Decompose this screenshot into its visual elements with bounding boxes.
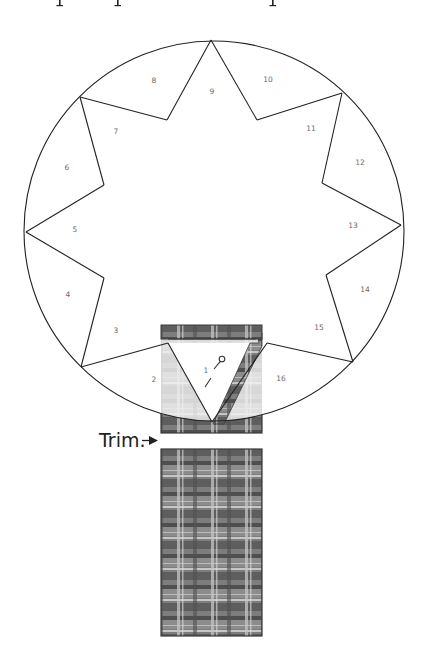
segment-label-15: 15 [314, 323, 324, 332]
segment-label-7: 7 [114, 127, 119, 136]
segment-label-2: 2 [152, 375, 157, 384]
segment-label-14: 14 [360, 285, 370, 294]
segment-label-3: 3 [114, 326, 119, 335]
segment-label-4: 4 [66, 290, 71, 299]
segment-label-9: 9 [210, 87, 215, 96]
segment-label-11: 11 [306, 124, 316, 133]
segment-label-1: 1 [204, 366, 209, 375]
segment-label-6: 6 [65, 163, 70, 172]
segment-label-16: 16 [276, 374, 286, 383]
segment-label-13: 13 [348, 221, 358, 230]
previous-line-descenders [57, 0, 277, 6]
trim-label: Trim. [98, 429, 145, 451]
arrow-right-icon [149, 436, 158, 445]
trim-annotation: Trim. [98, 429, 158, 451]
segment-label-5: 5 [73, 225, 78, 234]
segment-label-10: 10 [263, 75, 273, 84]
segment-label-12: 12 [355, 158, 365, 167]
segment-label-8: 8 [152, 76, 157, 85]
lower-fabric-piece [161, 449, 262, 636]
foundation-piecing-diagram: 12345678910111213141516 Trim. [0, 0, 423, 654]
